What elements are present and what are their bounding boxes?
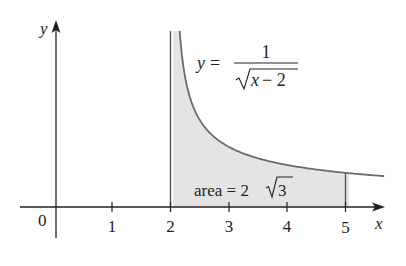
x-tick-label-3: 3 bbox=[225, 217, 234, 236]
x-tick-label-5: 5 bbox=[341, 218, 350, 237]
area-label: area = 2 3 bbox=[194, 177, 293, 200]
svg-text:− 2: − 2 bbox=[262, 70, 286, 90]
svg-text:=: = bbox=[210, 53, 220, 73]
svg-text:area = 2: area = 2 bbox=[194, 181, 249, 200]
svg-text:3: 3 bbox=[278, 181, 287, 200]
function-numerator: 1 bbox=[262, 42, 271, 62]
svg-text:x: x bbox=[250, 70, 259, 90]
x-tick-label-4: 4 bbox=[283, 217, 292, 236]
x-axis-label: x bbox=[374, 214, 383, 233]
svg-text:y: y bbox=[195, 53, 205, 73]
graph: 0 1 2 3 4 5 x y y = 1 x − 2 area = 2 3 bbox=[0, 0, 406, 266]
y-axis-label: y bbox=[38, 19, 48, 38]
x-tick-label-1: 1 bbox=[108, 217, 117, 236]
function-label: y = 1 x − 2 bbox=[195, 42, 298, 90]
x-tick-label-2: 2 bbox=[166, 217, 175, 236]
origin-label: 0 bbox=[38, 211, 47, 230]
